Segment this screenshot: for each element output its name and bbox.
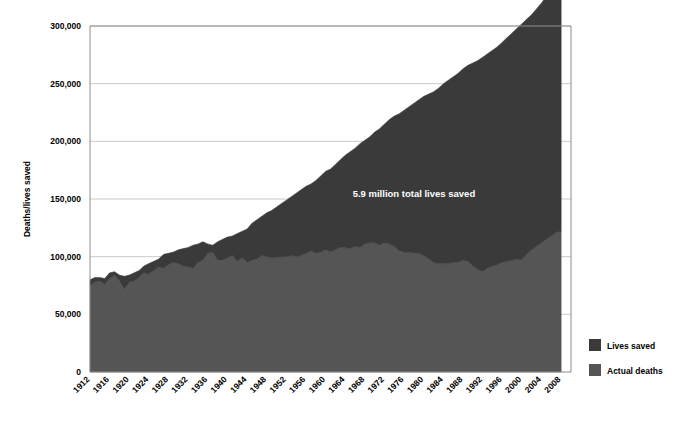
chart-annotations: 5.9 million total lives saved (353, 188, 476, 199)
legend-label[interactable]: Lives saved (607, 341, 655, 351)
y-tick-label: 50,000 (55, 309, 81, 319)
legend-swatch[interactable] (589, 339, 601, 351)
chart-annotation-label: 5.9 million total lives saved (353, 188, 476, 199)
y-axis-title-text: Deaths/lives saved (22, 161, 32, 237)
legend-label[interactable]: Actual deaths (607, 366, 663, 376)
y-tick-label: 300,000 (50, 21, 81, 31)
y-tick-label: 150,000 (50, 194, 81, 204)
y-tick-label: 100,000 (50, 252, 81, 262)
y-tick-label: 250,000 (50, 79, 81, 89)
chart-container: 050,000100,000150,000200,000250,000300,0… (0, 0, 688, 424)
y-axis-title: Deaths/lives saved (22, 161, 32, 237)
y-tick-label: 0 (76, 367, 81, 377)
y-tick-label: 200,000 (50, 136, 81, 146)
area-chart: 050,000100,000150,000200,000250,000300,0… (0, 0, 688, 424)
legend-swatch[interactable] (589, 364, 601, 376)
